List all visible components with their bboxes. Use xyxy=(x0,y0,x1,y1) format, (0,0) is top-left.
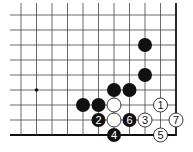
move-number-label: 6 xyxy=(126,114,132,126)
star-points xyxy=(35,88,39,92)
black-stone-icon xyxy=(138,68,152,82)
black-stone-icon xyxy=(123,83,137,97)
move-number-label: 7 xyxy=(173,114,179,126)
black-stone xyxy=(138,38,152,52)
white-stone-icon xyxy=(107,98,121,112)
black-stone xyxy=(123,83,137,97)
black-stone-icon xyxy=(107,83,121,97)
black-stone xyxy=(107,83,121,97)
white-stone-icon xyxy=(107,113,121,127)
white-stone-5: 5 xyxy=(154,128,168,142)
white-stone-1: 1 xyxy=(154,98,168,112)
black-stone-icon xyxy=(76,98,90,112)
move-number-label: 2 xyxy=(95,114,101,126)
black-stone-4: 4 xyxy=(107,128,121,142)
star-point-icon xyxy=(35,88,39,92)
move-number-label: 5 xyxy=(157,129,163,141)
white-stone xyxy=(107,113,121,127)
black-stone xyxy=(92,98,106,112)
go-board-diagram: 1263745 xyxy=(0,0,193,152)
grid-lines xyxy=(10,3,177,135)
move-number-label: 3 xyxy=(142,114,148,126)
move-number-label: 4 xyxy=(111,129,117,141)
black-stone-icon xyxy=(138,38,152,52)
white-stone-7: 7 xyxy=(169,113,183,127)
black-stone-2: 2 xyxy=(92,113,106,127)
black-stone-icon xyxy=(92,98,106,112)
move-number-label: 1 xyxy=(157,99,163,111)
black-stone-6: 6 xyxy=(123,113,137,127)
white-stone-3: 3 xyxy=(138,113,152,127)
black-stone xyxy=(76,98,90,112)
white-stone xyxy=(107,98,121,112)
black-stone xyxy=(138,68,152,82)
